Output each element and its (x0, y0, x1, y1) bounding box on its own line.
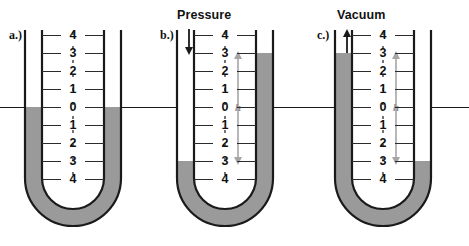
tick-right (237, 71, 256, 72)
tick-right (237, 179, 256, 180)
tick-right (85, 143, 104, 144)
manometer-diagram: a.) 4 3 2 1 0 1 (0, 0, 469, 246)
scale-number: 4 (374, 173, 392, 186)
scale-number: 2 (374, 65, 392, 78)
tick-right (395, 35, 414, 36)
tick-left (194, 89, 213, 90)
scale-number: 4 (216, 29, 234, 42)
baseline-left-a (0, 107, 25, 108)
panel-c: Vacuum c.) h 4 3 2 (313, 0, 469, 246)
scale-number: 4 (374, 29, 392, 42)
scale-number: 2 (374, 137, 392, 150)
tick-left (352, 53, 371, 54)
tick-right (237, 125, 256, 126)
tick-right (237, 53, 256, 54)
tick-left (42, 143, 61, 144)
scale-number: 2 (64, 137, 82, 150)
tick-right (85, 35, 104, 36)
baseline-left-c (313, 107, 335, 108)
scale-number: 2 (216, 137, 234, 150)
baseline-right-c (431, 107, 469, 108)
tick-left (42, 125, 61, 126)
tick-left (42, 53, 61, 54)
scale-number: 1 (216, 83, 234, 96)
tick-right (395, 179, 414, 180)
tick-left (194, 179, 213, 180)
tick-right (395, 125, 414, 126)
tick-left (352, 35, 371, 36)
tick-right (395, 161, 414, 162)
tick-left (42, 35, 61, 36)
baseline-right-a (121, 107, 158, 108)
tick-right (237, 89, 256, 90)
tick-left (42, 161, 61, 162)
tick-right (85, 179, 104, 180)
tick-left (352, 107, 371, 108)
tick-right (395, 53, 414, 54)
scale-number: 4 (216, 173, 234, 186)
tick-right (237, 143, 256, 144)
tick-right (395, 143, 414, 144)
tick-right (237, 35, 256, 36)
tick-right (395, 89, 414, 90)
tick-right (237, 107, 256, 108)
scale-number: 3 (216, 155, 234, 168)
tick-right (237, 161, 256, 162)
scale-number: 3 (64, 155, 82, 168)
scale-number: 1 (374, 119, 392, 132)
scale-number: 3 (374, 155, 392, 168)
scale-number: 1 (64, 83, 82, 96)
tick-left (194, 71, 213, 72)
panel-b: Pressure b.) h 4 3 2 (155, 0, 315, 246)
scale-number-zero: 0 (374, 101, 392, 114)
tick-left (352, 143, 371, 144)
scale-number: 3 (64, 47, 82, 60)
tick-left (352, 161, 371, 162)
scale-number: 3 (216, 47, 234, 60)
tick-left (194, 143, 213, 144)
tick-right (395, 107, 414, 108)
scale-number: 1 (216, 119, 234, 132)
scale-number: 2 (216, 65, 234, 78)
scale-number: 3 (374, 47, 392, 60)
scale-number: 1 (374, 83, 392, 96)
tick-left (352, 89, 371, 90)
tick-left (352, 179, 371, 180)
tick-right (85, 161, 104, 162)
tick-left (42, 107, 61, 108)
tick-left (194, 125, 213, 126)
panel-a: a.) 4 3 2 1 0 1 (0, 0, 158, 246)
tick-left (194, 161, 213, 162)
tick-left (42, 179, 61, 180)
tick-right (85, 107, 104, 108)
tick-left (194, 107, 213, 108)
tick-right (85, 89, 104, 90)
tick-right (85, 71, 104, 72)
tick-left (42, 71, 61, 72)
scale-number: 1 (64, 119, 82, 132)
tick-right (395, 71, 414, 72)
tick-right (85, 125, 104, 126)
tick-left (194, 53, 213, 54)
scale-number: 2 (64, 65, 82, 78)
tick-left (352, 71, 371, 72)
tick-right (85, 53, 104, 54)
scale-number-zero: 0 (64, 101, 82, 114)
tick-left (42, 89, 61, 90)
baseline-right-b (273, 107, 315, 108)
baseline-left-b (155, 107, 177, 108)
scale-number-zero: 0 (216, 101, 234, 114)
scale-number: 4 (64, 29, 82, 42)
tick-left (194, 35, 213, 36)
tick-left (352, 125, 371, 126)
scale-number: 4 (64, 173, 82, 186)
